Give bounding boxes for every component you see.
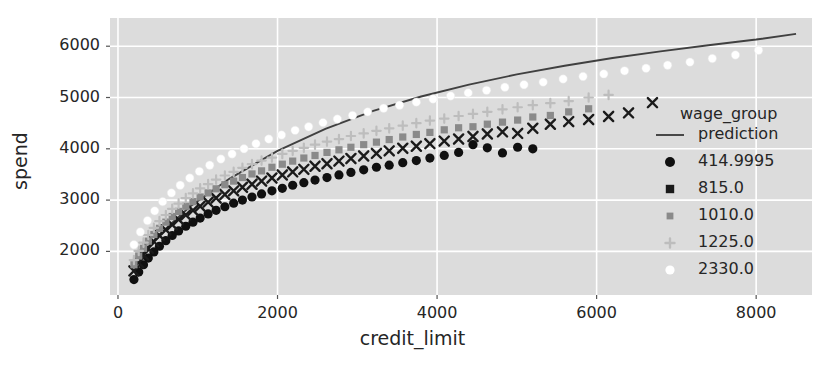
x-tick-label: 0 bbox=[78, 303, 158, 322]
legend-label-2330-0: 2330.0 bbox=[698, 259, 754, 278]
x-axis-label: credit_limit bbox=[0, 327, 825, 349]
x-tick-label: 8000 bbox=[716, 303, 796, 322]
legend-title: wage_group bbox=[680, 104, 777, 123]
legend-label-1225-0: 1225.0 bbox=[698, 232, 754, 251]
legend-label-414-9995: 414.9995 bbox=[698, 151, 774, 170]
x-tick-label: 4000 bbox=[397, 303, 477, 322]
x-tick-label: 6000 bbox=[557, 303, 637, 322]
y-axis-label: spend bbox=[9, 111, 31, 211]
y-tick-label: 5000 bbox=[30, 87, 100, 106]
y-tick-label: 4000 bbox=[30, 138, 100, 157]
legend-label-815-0: 815.0 bbox=[698, 178, 744, 197]
y-tick-label: 6000 bbox=[30, 35, 100, 54]
legend-label-prediction: prediction bbox=[698, 124, 778, 143]
y-tick-label: 3000 bbox=[30, 189, 100, 208]
x-tick-label: 2000 bbox=[238, 303, 318, 322]
y-tick-label: 2000 bbox=[30, 240, 100, 259]
legend-label-1010-0: 1010.0 bbox=[698, 205, 754, 224]
